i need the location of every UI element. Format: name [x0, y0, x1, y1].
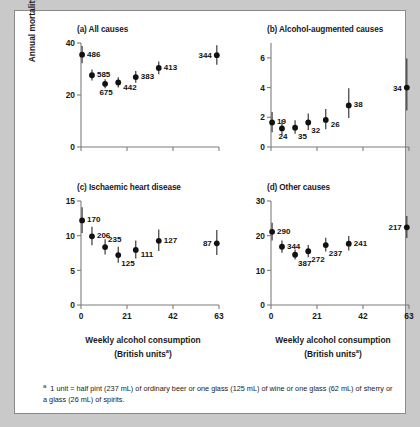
y-tick-label: 40	[66, 38, 76, 48]
data-point: 290	[269, 223, 291, 241]
data-point-label: 235	[108, 235, 122, 244]
data-point: 413	[156, 61, 178, 74]
x-axis-label-line2-pre: (British units	[304, 349, 356, 359]
x-tick-label: 63	[214, 311, 224, 321]
x-tick-label: 42	[358, 311, 368, 321]
y-tick-label: 20	[66, 90, 76, 100]
data-point-label: 237	[329, 249, 343, 258]
data-point-label: 32	[311, 126, 320, 135]
data-point: 241	[346, 236, 368, 251]
data-point: 344	[279, 241, 301, 253]
data-point-label: 38	[354, 100, 363, 109]
data-point: 38	[346, 88, 363, 118]
data-point-label: 585	[97, 70, 111, 79]
x-tick-label: 0	[79, 311, 84, 321]
data-point: 486	[79, 46, 101, 63]
panel-b-plot: 024619243532263834	[243, 37, 413, 169]
data-point-label: 24	[278, 132, 287, 141]
data-point: 26	[323, 109, 340, 129]
data-point-label: 413	[164, 63, 178, 72]
data-point-label: 34	[393, 84, 402, 93]
footnote-marker: a	[43, 383, 46, 389]
data-point-label: 217	[388, 223, 402, 232]
y-tick-label: 10	[66, 231, 76, 241]
data-point-label: 272	[311, 255, 325, 264]
data-point: 442	[115, 77, 137, 91]
y-tick-label: 10	[256, 266, 266, 276]
y-tick-label: 30	[256, 196, 266, 206]
data-point: 217	[388, 216, 409, 238]
data-point: 237	[323, 238, 343, 258]
data-point: 127	[156, 229, 178, 250]
data-point-label: 35	[298, 132, 307, 141]
data-point-label: 26	[331, 120, 340, 129]
data-point-label: 344	[198, 51, 212, 60]
data-point-label: 290	[277, 227, 291, 236]
data-point-label: 442	[123, 83, 137, 92]
y-tick-label: 0	[260, 142, 265, 152]
data-point-label: 383	[141, 72, 155, 81]
x-axis-label-line2-post: )	[169, 349, 172, 359]
x-tick-label: 63	[404, 311, 414, 321]
data-point-label: 241	[354, 239, 368, 248]
x-axis-label-line2-post: )	[359, 349, 362, 359]
x-tick-label: 0	[269, 311, 274, 321]
y-tick-label: 2	[260, 112, 265, 122]
panel-b-title: (b) Alcohol-augmented causes	[267, 25, 383, 34]
y-tick-label: 0	[260, 300, 265, 310]
data-point: 585	[89, 70, 111, 81]
data-point-label: 387	[298, 259, 312, 268]
x-tick-label: 21	[122, 311, 132, 321]
y-tick-label: 20	[256, 231, 266, 241]
y-tick-label: 15	[66, 196, 76, 206]
data-point: 87	[203, 230, 220, 255]
data-point: 125	[115, 247, 135, 268]
footnote-text: 1 unit = half pint (237 mL) of ordinary …	[43, 384, 392, 404]
data-point: 111	[133, 241, 154, 259]
y-tick-label: 5	[70, 266, 75, 276]
y-axis-label: Annual mortality per 1000 pyrs	[27, 0, 37, 101]
data-point-label: 127	[164, 236, 178, 245]
panel-c-title: (c) Ischaemic heart disease	[77, 183, 181, 192]
panel-d-title: (d) Other causes	[267, 183, 330, 192]
data-point-label: 170	[87, 215, 101, 224]
figure-container: Annual mortality per 1000 pyrs (a) All c…	[14, 10, 406, 414]
data-point-label: 125	[121, 259, 135, 268]
data-point-label: 675	[99, 88, 113, 97]
data-point: 383	[133, 71, 155, 83]
panel-a-title: (a) All causes	[77, 25, 128, 34]
data-point: 675	[99, 79, 113, 97]
data-point: 32	[305, 114, 320, 136]
data-point: 34	[393, 59, 410, 111]
footnote: a1 unit = half pint (237 mL) of ordinary…	[43, 381, 393, 405]
x-axis-label-line1: Weekly alcohol consumption	[85, 335, 200, 345]
y-tick-label: 0	[70, 142, 75, 152]
data-point-label: 486	[87, 50, 101, 59]
data-point-label: 87	[203, 239, 212, 248]
data-point-label: 344	[287, 242, 301, 251]
y-tick-label: 0	[70, 300, 75, 310]
data-point: 170	[79, 207, 101, 233]
data-point: 35	[292, 120, 307, 140]
panel-d-x-axis-caption: Weekly alcohol consumption (British unit…	[253, 335, 413, 360]
x-axis-label-line1: Weekly alcohol consumption	[275, 335, 390, 345]
x-tick-label: 42	[168, 311, 178, 321]
panel-d-plot: 01020300214263290344387272237241217	[243, 195, 413, 327]
y-tick-label: 6	[260, 53, 265, 63]
panel-c-x-axis-caption: Weekly alcohol consumption (British unit…	[63, 335, 223, 360]
y-tick-label: 4	[260, 83, 265, 93]
x-tick-label: 21	[312, 311, 322, 321]
panel-a-plot: 02040486585675442383413344	[53, 37, 223, 169]
data-point: 344	[198, 45, 219, 64]
data-point-label: 111	[141, 250, 154, 259]
panel-c-plot: 051015021426317020623512511112787	[53, 195, 223, 327]
x-axis-label-line2-pre: (British units	[114, 349, 166, 359]
